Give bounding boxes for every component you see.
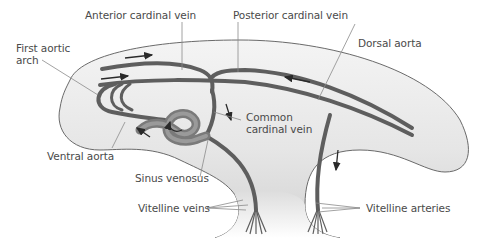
label-anterior-cardinal-vein: Anterior cardinal vein [85, 9, 196, 21]
label-common-cardinal-vein-line2: cardinal vein [246, 123, 312, 135]
label-vitelline-veins: Vitelline veins [138, 202, 210, 214]
label-posterior-cardinal-vein: Posterior cardinal vein [233, 9, 348, 21]
label-first-aortic-arch-line1: First aortic [16, 42, 70, 54]
label-vitelline-arteries: Vitelline arteries [366, 202, 450, 214]
label-first-aortic-arch-line2: arch [16, 54, 39, 66]
embryo-circulation-diagram: Anterior cardinal vein Posterior cardina… [0, 0, 481, 238]
label-sinus-venosus: Sinus venosus [135, 172, 209, 184]
label-dorsal-aorta: Dorsal aorta [358, 37, 422, 49]
label-ventral-aorta: Ventral aorta [47, 150, 114, 162]
label-common-cardinal-vein-line1: Common [246, 111, 293, 123]
